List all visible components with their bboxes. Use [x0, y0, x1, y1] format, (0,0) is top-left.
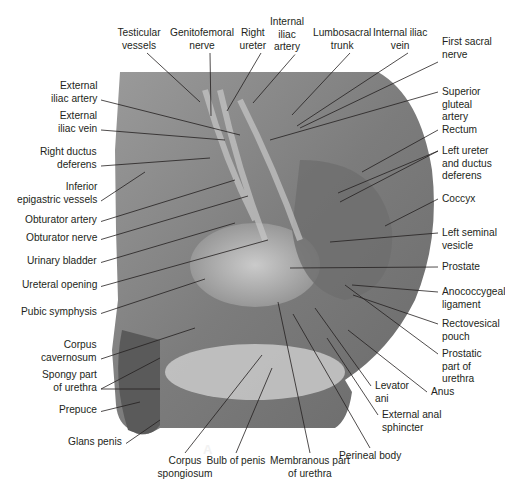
label-line: Rectum: [442, 124, 477, 137]
label-line: Levator: [375, 380, 409, 393]
label-line: Corpus: [41, 339, 97, 352]
label-line: Lumbosacral: [313, 27, 371, 40]
label-line: Coccyx: [442, 193, 475, 206]
label-prepuce: Prepuce: [59, 404, 97, 417]
label-line: sphincter: [382, 422, 441, 435]
label-pubic-symphysis: Pubic symphysis: [21, 306, 97, 319]
label-prostate: Prostate: [442, 261, 480, 274]
label-line: Rectovesical: [442, 318, 500, 331]
label-external-anal-sphincter: External analsphincter: [382, 409, 441, 434]
label-line: Prostatic: [442, 348, 482, 361]
label-line: External anal: [382, 409, 441, 422]
label-line: ureter: [240, 40, 267, 53]
label-line: ligament: [442, 299, 505, 312]
label-membranous-part-of-urethra: Membranous partof urethra: [270, 455, 350, 480]
label-line: Spongy part: [42, 369, 97, 382]
label-urinary-bladder: Urinary bladder: [27, 255, 97, 268]
label-line: Genitofemoral: [170, 27, 234, 40]
label-spongy-part-of-urethra: Spongy partof urethra: [42, 369, 97, 394]
label-right-ureter: Rightureter: [240, 27, 267, 52]
bulb-region: [165, 344, 345, 400]
label-line: Glans penis: [68, 436, 122, 449]
label-line: Ureteral opening: [22, 279, 97, 292]
label-rectum: Rectum: [442, 124, 477, 137]
label-obturator-artery: Obturator artery: [25, 214, 97, 227]
label-line: Prostate: [442, 261, 480, 274]
label-glans-penis: Glans penis: [68, 436, 122, 449]
label-ureteral-opening: Ureteral opening: [22, 279, 97, 292]
label-line: nerve: [170, 40, 234, 53]
label-line: First sacral: [442, 36, 492, 49]
label-line: vesicle: [442, 240, 497, 253]
label-prostatic-part-of-urethra: Prostaticpart ofurethra: [442, 348, 482, 386]
label-line: iliac artery: [51, 93, 97, 106]
label-line: of urethra: [270, 468, 350, 481]
label-line: and ductus: [442, 158, 492, 171]
label-line: External: [51, 80, 97, 93]
label-line: artery: [270, 41, 304, 54]
label-bulb-of-penis: Bulb of penis: [207, 455, 266, 468]
label-line: Superior: [442, 86, 481, 99]
label-line: Internal iliac: [373, 27, 427, 40]
label-line: Anococcygeal: [442, 286, 505, 299]
label-obturator-nerve: Obturator nerve: [26, 232, 97, 245]
label-line: Internal: [270, 16, 304, 29]
label-coccyx: Coccyx: [442, 193, 475, 206]
label-line: pouch: [442, 331, 500, 344]
label-first-sacral-nerve: First sacralnerve: [442, 36, 492, 61]
label-line: Bulb of penis: [207, 455, 266, 468]
label-anus: Anus: [431, 386, 454, 399]
label-corpus-cavernosum: Corpuscavernosum: [41, 339, 97, 364]
label-superior-gluteal-artery: Superiorglutealartery: [442, 86, 481, 124]
label-line: Perineal body: [339, 450, 401, 463]
label-external-iliac-vein: Externaliliac vein: [58, 110, 97, 135]
label-line: Obturator artery: [25, 214, 97, 227]
label-line: Pubic symphysis: [21, 306, 97, 319]
label-internal-iliac-artery: Internaliliacartery: [270, 16, 304, 54]
label-testicular-vessels: Testicularvessels: [118, 27, 161, 52]
label-internal-iliac-vein: Internal iliacvein: [373, 27, 427, 52]
label-line: External: [58, 110, 97, 123]
label-line: Urinary bladder: [27, 255, 97, 268]
label-line: ani: [375, 393, 409, 406]
label-perineal-body: Perineal body: [339, 450, 401, 463]
panel-letter: A: [203, 442, 212, 457]
label-line: spongiosum: [158, 468, 213, 481]
label-line: Left seminal: [442, 227, 497, 240]
label-line: of urethra: [42, 382, 97, 395]
label-levator-ani: Levatorani: [375, 380, 409, 405]
label-line: Membranous part: [270, 455, 350, 468]
label-lumbosacral-trunk: Lumbosacraltrunk: [313, 27, 371, 52]
label-line: iliac vein: [58, 123, 97, 136]
label-line: Testicular: [118, 27, 161, 40]
label-line: trunk: [313, 40, 371, 53]
label-line: nerve: [442, 49, 492, 62]
label-line: vein: [373, 40, 427, 53]
label-anococcygeal-ligament: Anococcygealligament: [442, 286, 505, 311]
label-line: artery: [442, 111, 481, 124]
label-line: part of: [442, 361, 482, 374]
label-corpus-spongiosum: Corpusspongiosum: [158, 455, 213, 480]
label-line: Inferior: [17, 181, 97, 194]
label-line: urethra: [442, 373, 482, 386]
label-line: Right ductus: [40, 146, 97, 159]
label-inferior-epigastric-vessels: Inferiorepigastric vessels: [17, 181, 97, 206]
label-line: Right: [240, 27, 267, 40]
label-line: vessels: [118, 40, 161, 53]
label-line: deferens: [40, 159, 97, 172]
label-line: Anus: [431, 386, 454, 399]
label-line: gluteal: [442, 99, 481, 112]
label-left-seminal-vesicle: Left seminalvesicle: [442, 227, 497, 252]
label-line: Obturator nerve: [26, 232, 97, 245]
label-external-iliac-artery: Externaliliac artery: [51, 80, 97, 105]
label-line: deferens: [442, 170, 492, 183]
label-genitofemoral-nerve: Genitofemoralnerve: [170, 27, 234, 52]
label-line: Prepuce: [59, 404, 97, 417]
label-line: Left ureter: [442, 145, 492, 158]
label-line: epigastric vessels: [17, 194, 97, 207]
label-line: iliac: [270, 29, 304, 42]
label-line: cavernosum: [41, 352, 97, 365]
label-left-ureter-and-ductus-deferens: Left ureterand ductusdeferens: [442, 145, 492, 183]
label-right-ductus-deferens: Right ductusdeferens: [40, 146, 97, 171]
